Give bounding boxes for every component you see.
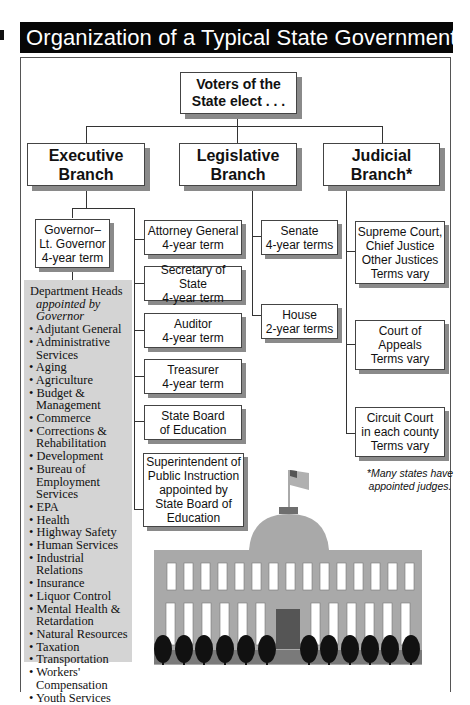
department-item: Youth Services [28, 692, 128, 705]
